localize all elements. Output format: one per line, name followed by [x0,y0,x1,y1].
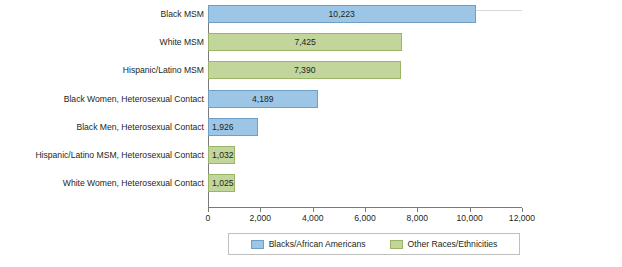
legend-item-other-races-ethnicities[interactable]: Other Races/Ethnicities [390,239,498,249]
table-row: Black Women, Heterosexual Contact 4,189 [0,85,622,113]
table-row: Black MSM 10,223 [0,0,622,28]
bar-black-msm[interactable]: 10,223 [208,5,476,23]
x-tick [208,208,209,212]
table-row: Hispanic/Latino MSM 7,390 [0,56,622,84]
table-row: Hispanic/Latino MSM, Heterosexual Contac… [0,141,622,169]
x-tick [470,208,471,212]
legend-label: Blacks/African Americans [269,239,366,249]
x-tick-label: 10,000 [457,213,483,223]
category-label: Black MSM [0,9,208,19]
bar-rows: Black MSM 10,223 White MSM 7,425 Hispani… [0,0,208,198]
x-tick-label: 4,000 [302,213,324,223]
bar-track: 10,223 [208,0,622,28]
bar-value-label: 10,223 [209,9,475,19]
table-row: White MSM 7,425 [0,28,622,56]
x-tick-label: 0 [206,213,211,223]
bar-chart: Black MSM 10,223 White MSM 7,425 Hispani… [0,0,622,267]
bar-white-women-heterosexual[interactable]: 1,025 [208,174,235,192]
category-label: White Women, Heterosexual Contact [0,178,208,188]
category-label: Black Men, Heterosexual Contact [0,122,208,132]
bar-track: 1,032 [208,141,622,169]
bar-track: 7,425 [208,28,622,56]
bar-value-label: 4,189 [209,94,317,104]
bar-black-men-heterosexual[interactable]: 1,926 [208,118,258,136]
bar-hispanic-latino-msm-heterosexual[interactable]: 1,032 [208,146,235,164]
table-row: Black Men, Heterosexual Contact 1,926 [0,113,622,141]
category-label: Hispanic/Latino MSM, Heterosexual Contac… [0,150,208,160]
category-label: Hispanic/Latino MSM [0,65,208,75]
bar-track: 4,189 [208,85,622,113]
x-tick [417,208,418,212]
bar-value-label: 1,025 [212,178,234,188]
x-tick [260,208,261,212]
bar-value-label: 1,926 [212,122,234,132]
bar-black-women-heterosexual[interactable]: 4,189 [208,90,318,108]
category-label: White MSM [0,37,208,47]
bar-hispanic-latino-msm[interactable]: 7,390 [208,61,401,79]
legend: Blacks/African Americans Other Races/Eth… [228,233,520,255]
x-axis: 0 2,000 4,000 6,000 8,000 10,000 12,000 [208,208,522,226]
legend-swatch-icon [251,240,264,249]
x-tick [313,208,314,212]
x-tick [522,208,523,212]
legend-swatch-icon [390,240,403,249]
x-tick-label: 12,000 [509,213,535,223]
bar-track: 7,390 [208,56,622,84]
legend-item-blacks-african-americans[interactable]: Blacks/African Americans [251,239,366,249]
bar-value-label: 1,032 [212,150,234,160]
bar-white-msm[interactable]: 7,425 [208,33,402,51]
x-tick [365,208,366,212]
legend-label: Other Races/Ethnicities [408,239,498,249]
x-tick-label: 8,000 [407,213,429,223]
bar-track: 1,025 [208,169,622,197]
category-label: Black Women, Heterosexual Contact [0,94,208,104]
table-row: White Women, Heterosexual Contact 1,025 [0,169,622,197]
x-tick-label: 2,000 [250,213,272,223]
x-tick-label: 6,000 [354,213,376,223]
bar-value-label: 7,425 [209,37,401,47]
bar-track: 1,926 [208,113,622,141]
bar-value-label: 7,390 [209,65,400,75]
